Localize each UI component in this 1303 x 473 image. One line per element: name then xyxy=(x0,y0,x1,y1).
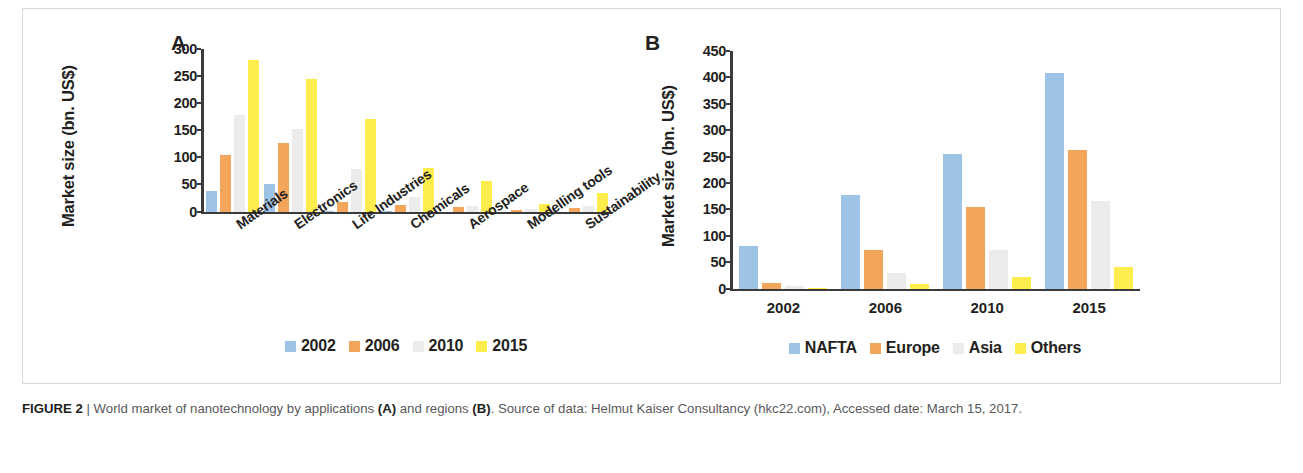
legend-swatch-icon xyxy=(953,343,964,354)
y-tick-mark xyxy=(197,183,201,185)
bar-group xyxy=(204,49,262,212)
caption-ref-b: (B) xyxy=(472,401,490,416)
y-tick-mark xyxy=(726,76,730,78)
y-tick-mark xyxy=(726,103,730,105)
bar xyxy=(808,288,827,289)
bar xyxy=(453,207,464,212)
bar-group xyxy=(262,49,320,212)
bar xyxy=(248,60,259,212)
legend-label: Others xyxy=(1031,339,1081,357)
panel-a-x-axis-labels: MaterialsElectronicsLife IndustriesChemi… xyxy=(204,219,612,220)
y-tick-label: 200 xyxy=(703,175,726,191)
y-tick-mark xyxy=(726,235,730,237)
caption-text-3: . Source of data: Helmut Kaiser Consulta… xyxy=(491,401,1022,416)
bar xyxy=(395,205,406,212)
figure-caption: FIGURE 2 | World market of nanotechnolog… xyxy=(22,398,1284,419)
y-tick-mark xyxy=(726,288,730,290)
chart-panel-a: A Market size (bn. US$) 0501001502002503… xyxy=(23,9,643,383)
y-tick-label: 400 xyxy=(703,69,726,85)
legend-label: 2010 xyxy=(429,337,464,355)
x-axis-label: 2015 xyxy=(1038,299,1140,316)
y-tick-mark xyxy=(197,211,201,213)
bar xyxy=(220,155,231,212)
bar-group xyxy=(834,51,936,289)
legend-label: 2015 xyxy=(492,337,527,355)
bar xyxy=(206,191,217,212)
y-tick-label: 250 xyxy=(703,149,726,165)
bar xyxy=(1114,267,1133,289)
legend-swatch-icon xyxy=(789,343,800,354)
legend-swatch-icon xyxy=(476,341,487,352)
bar xyxy=(569,208,580,212)
legend-item[interactable]: Others xyxy=(1015,339,1081,357)
bar xyxy=(365,119,376,212)
legend-swatch-icon xyxy=(1015,343,1026,354)
caption-text-1: World market of nanotechnology by applic… xyxy=(94,401,378,416)
legend-item[interactable]: NAFTA xyxy=(789,339,857,357)
y-tick-label: 0 xyxy=(718,281,726,297)
legend-label: Europe xyxy=(886,339,940,357)
bar xyxy=(762,283,781,288)
y-tick-mark xyxy=(726,156,730,158)
x-axis-label: 2010 xyxy=(936,299,1038,316)
bar xyxy=(1012,277,1031,289)
caption-ref-a: (A) xyxy=(378,401,396,416)
legend-item[interactable]: Europe xyxy=(870,339,940,357)
y-tick-mark xyxy=(726,208,730,210)
y-tick-label: 300 xyxy=(703,122,726,138)
bar xyxy=(511,210,522,212)
y-tick-mark xyxy=(726,50,730,52)
bar xyxy=(292,129,303,211)
bar xyxy=(1068,150,1087,288)
bar xyxy=(966,207,985,289)
bar xyxy=(989,250,1008,289)
bar xyxy=(739,246,758,288)
x-axis-label: Chemicals xyxy=(378,219,436,220)
bar xyxy=(409,197,420,211)
caption-separator: | xyxy=(83,401,94,416)
y-tick-mark xyxy=(726,261,730,263)
panel-b-x-axis-line xyxy=(730,289,1140,292)
panel-a-legend: 2002200620102015 xyxy=(201,337,611,355)
bar xyxy=(1045,73,1064,288)
legend-item[interactable]: 2015 xyxy=(476,337,527,355)
y-tick-mark xyxy=(197,102,201,104)
legend-label: Asia xyxy=(969,339,1002,357)
caption-figure-label: FIGURE 2 xyxy=(22,401,83,416)
legend-item[interactable]: 2010 xyxy=(413,337,464,355)
y-tick-label: 200 xyxy=(174,95,197,111)
panel-b-bar-groups xyxy=(733,51,1141,289)
bar-group xyxy=(1038,51,1140,289)
y-tick-label: 50 xyxy=(710,254,726,270)
legend-item[interactable]: Asia xyxy=(953,339,1002,357)
x-axis-label: Aerospace xyxy=(436,219,494,220)
y-tick-mark xyxy=(197,75,201,77)
bar xyxy=(234,115,245,211)
x-axis-label: Materials xyxy=(204,219,262,220)
y-tick-mark xyxy=(197,129,201,131)
legend-item[interactable]: 2006 xyxy=(349,337,400,355)
y-tick-label: 300 xyxy=(174,41,197,57)
caption-text-2: and regions xyxy=(396,401,472,416)
y-tick-mark xyxy=(197,48,201,50)
legend-swatch-icon xyxy=(413,341,424,352)
y-tick-mark xyxy=(197,156,201,158)
legend-swatch-icon xyxy=(285,341,296,352)
x-axis-label: Life Industries xyxy=(320,219,378,220)
y-tick-label: 50 xyxy=(181,176,197,192)
y-tick-mark xyxy=(726,182,730,184)
bar xyxy=(841,195,860,289)
panel-b-x-axis-labels: 2002200620102015 xyxy=(733,299,1141,316)
panel-a-y-axis-title: Market size (bn. US$) xyxy=(59,65,78,227)
panel-b-letter: B xyxy=(645,31,661,55)
bar-group xyxy=(936,51,1038,289)
y-tick-label: 100 xyxy=(174,149,197,165)
y-tick-label: 150 xyxy=(703,201,726,217)
bar xyxy=(306,79,317,212)
legend-swatch-icon xyxy=(349,341,360,352)
legend-item[interactable]: 2002 xyxy=(285,337,336,355)
bar xyxy=(864,250,883,289)
y-tick-label: 100 xyxy=(703,228,726,244)
panel-b-plot-area: 050100150200250300350400450 xyxy=(730,51,1140,291)
bar xyxy=(887,273,906,288)
